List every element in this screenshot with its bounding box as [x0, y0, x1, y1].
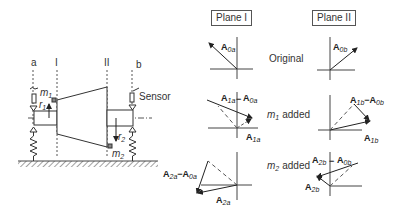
m2-label: m2	[112, 148, 124, 160]
plane2-original-vector-diagram: A0b	[317, 37, 357, 80]
spring-a	[30, 132, 37, 161]
sensor-label: Sensor	[139, 91, 171, 102]
A0b-label: A0b	[333, 42, 347, 53]
row-original-label: Original	[269, 53, 303, 64]
label-II: II	[104, 57, 110, 68]
row-m1-added-label: m1added	[267, 109, 310, 121]
label-I: I	[55, 57, 58, 68]
plane2-m2-vector-diagram-plane1: A2a−A0a A2a	[163, 152, 252, 206]
A1a-label: A1a	[246, 132, 260, 143]
spring-b	[129, 132, 136, 161]
plane1-m1-vector-diagram: A1a − A0a A1a	[207, 92, 260, 143]
ground-hatch	[18, 161, 158, 167]
plane1-original-vector-diagram: A0a	[209, 37, 253, 79]
A2a-minus-A0a-label: A2a−A0a	[163, 169, 197, 180]
A1a-label-top: A1a	[221, 93, 235, 104]
A2a-label: A2a	[216, 195, 230, 206]
minus-sign-2: −	[329, 156, 334, 166]
r2-label: r2	[118, 131, 125, 143]
A0b-label-2: A0b	[337, 155, 351, 166]
rotor-shaft-diagram: a I II b Sensor m1 r1 r2 m2	[18, 57, 171, 167]
A0a-label: A0a	[221, 42, 235, 53]
sensor-a	[32, 94, 36, 103]
m1-label: m1	[40, 87, 52, 99]
plane2-m1-vector-diagram: A1b−A0b A1b	[318, 95, 384, 144]
A1b-label: A1b	[364, 133, 378, 144]
A2b-label: A2b	[305, 182, 319, 193]
minus-sign: −	[236, 94, 241, 104]
rotor-cone	[57, 87, 107, 147]
label-a: a	[31, 57, 37, 68]
mass-m1	[52, 98, 56, 102]
row-m2-added-label: m2added	[267, 160, 310, 172]
label-b: b	[136, 59, 142, 70]
r1-label: r1	[39, 99, 46, 111]
A2b-label-top: A2b	[312, 155, 326, 166]
A0a-label-2: A0a	[243, 93, 257, 104]
balancing-diagram: a I II b Sensor m1 r1 r2 m2 Original m1a…	[0, 0, 403, 214]
plane2-m2-vector-diagram: A2b − A0b A2b	[305, 152, 362, 196]
A1b-minus-A0b-label: A1b−A0b	[350, 95, 384, 106]
sensor-b	[130, 93, 134, 102]
